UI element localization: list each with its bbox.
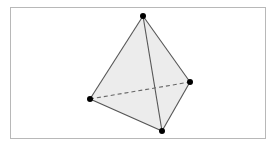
tetrahedron-diagram bbox=[0, 0, 276, 149]
tetrahedron-visible-face bbox=[90, 16, 190, 131]
vertex-top bbox=[140, 13, 146, 19]
vertex-left bbox=[87, 96, 93, 102]
vertex-right bbox=[187, 79, 193, 85]
vertex-bottom bbox=[159, 128, 165, 134]
